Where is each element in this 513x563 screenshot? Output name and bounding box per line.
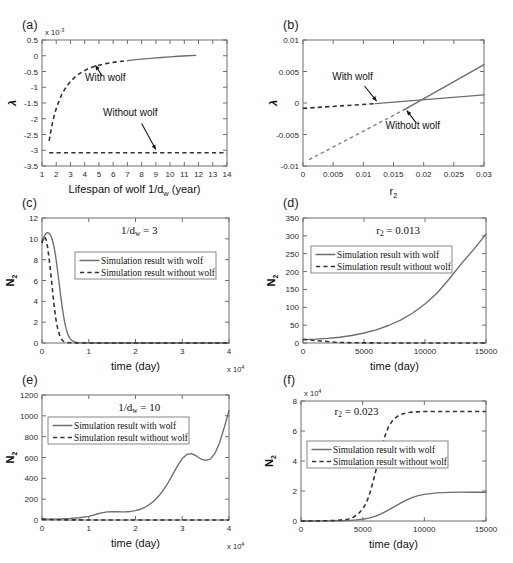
svg-text:Simulation result without wolf: Simulation result without wolf [337, 262, 452, 272]
svg-text:-0.005: -0.005 [276, 131, 299, 140]
svg-text:10000: 10000 [414, 347, 437, 356]
svg-text:time (day): time (day) [370, 360, 419, 372]
svg-text:7: 7 [125, 170, 130, 179]
panel-d-plot: 050001000015000050100150200250300350N2ti… [257, 196, 513, 371]
svg-text:3: 3 [68, 170, 73, 179]
svg-text:0.02: 0.02 [416, 170, 432, 179]
svg-text:3: 3 [180, 347, 185, 356]
svg-text:-1: -1 [31, 83, 39, 92]
svg-text:-3: -3 [31, 146, 39, 155]
svg-text:800: 800 [24, 433, 38, 442]
svg-text:0: 0 [40, 347, 45, 356]
svg-text:1/dw = 10: 1/dw = 10 [118, 401, 161, 415]
svg-text:0: 0 [40, 524, 45, 533]
svg-text:0.01: 0.01 [283, 36, 299, 45]
svg-text:6: 6 [111, 170, 116, 179]
svg-text:0.03: 0.03 [476, 170, 492, 179]
svg-text:2: 2 [133, 347, 138, 356]
svg-text:time (day): time (day) [369, 538, 418, 550]
svg-text:2: 2 [54, 170, 59, 179]
panel-c-label: (c) [22, 196, 37, 210]
svg-text:-1.5: -1.5 [24, 99, 38, 108]
svg-text:Simulation result without wolf: Simulation result without wolf [101, 268, 216, 278]
svg-text:15000: 15000 [475, 347, 498, 356]
svg-text:x 104: x 104 [304, 388, 321, 398]
svg-text:50: 50 [290, 321, 300, 330]
svg-text:Without wolf: Without wolf [386, 120, 441, 131]
svg-text:λ: λ [267, 100, 279, 107]
svg-text:N2: N2 [4, 274, 18, 286]
svg-text:0: 0 [33, 52, 38, 61]
svg-text:x 104: x 104 [227, 541, 244, 551]
panel-a: (a) 1234567891011121314-3.5-3-2.5-2-1.5-… [0, 18, 256, 193]
svg-text:time (day): time (day) [111, 537, 160, 549]
svg-text:8: 8 [139, 170, 144, 179]
svg-text:1200: 1200 [20, 391, 39, 400]
svg-text:-0.01: -0.01 [281, 162, 300, 171]
svg-text:0.005: 0.005 [279, 68, 300, 77]
svg-text:2: 2 [292, 487, 297, 496]
panel-e: (e) 01234020040060080010001200x 104N2tim… [0, 373, 256, 563]
svg-text:4: 4 [33, 297, 38, 306]
svg-text:8: 8 [33, 256, 38, 265]
panel-c-plot: 01234024681012x 104N2time (day)1/dw = 3S… [0, 196, 256, 371]
svg-text:600: 600 [24, 454, 38, 463]
svg-text:300: 300 [285, 232, 299, 241]
svg-text:Simulation result with wolf: Simulation result with wolf [333, 445, 436, 455]
panel-b-plot: 00.0050.010.0150.020.0250.03-0.01-0.0050… [257, 18, 513, 193]
svg-text:Simulation result without wolf: Simulation result without wolf [333, 457, 448, 467]
svg-text:0.01: 0.01 [355, 170, 371, 179]
figure-root: (a) 1234567891011121314-3.5-3-2.5-2-1.5-… [0, 0, 513, 563]
svg-text:200: 200 [285, 268, 299, 277]
svg-text:6: 6 [292, 427, 297, 436]
svg-text:4: 4 [227, 524, 232, 533]
svg-text:10: 10 [166, 170, 176, 179]
svg-text:0: 0 [301, 347, 306, 356]
svg-text:3: 3 [180, 524, 185, 533]
svg-text:Simulation result with wolf: Simulation result with wolf [74, 421, 177, 431]
svg-text:5000: 5000 [355, 347, 374, 356]
panel-b: (b) 00.0050.010.0150.020.0250.03-0.01-0.… [257, 18, 513, 193]
svg-text:15000: 15000 [475, 525, 498, 534]
svg-text:x 10-3: x 10-3 [45, 27, 64, 37]
svg-text:λ: λ [6, 100, 18, 107]
svg-text:4: 4 [292, 457, 297, 466]
svg-text:0: 0 [301, 170, 306, 179]
svg-text:1: 1 [86, 347, 91, 356]
svg-text:12: 12 [29, 214, 39, 223]
svg-text:N2: N2 [265, 274, 279, 286]
svg-text:Without wolf: Without wolf [103, 107, 158, 118]
svg-text:N2: N2 [263, 455, 277, 467]
svg-text:200: 200 [24, 495, 38, 504]
panel-f: (f) 05000100001500002468x 104N2time (day… [257, 373, 513, 563]
svg-text:10000: 10000 [413, 525, 436, 534]
svg-text:0.5: 0.5 [27, 36, 39, 45]
svg-text:1000: 1000 [20, 412, 39, 421]
svg-text:2: 2 [33, 318, 38, 327]
svg-text:With wolf: With wolf [85, 72, 126, 83]
svg-text:9: 9 [154, 170, 159, 179]
panel-d-label: (d) [283, 196, 299, 210]
svg-text:Simulation result without wolf: Simulation result without wolf [74, 433, 189, 443]
svg-text:r2 = 0.023: r2 = 0.023 [335, 405, 379, 419]
panel-a-label: (a) [22, 18, 38, 32]
svg-text:0: 0 [33, 339, 38, 348]
svg-text:0: 0 [294, 99, 299, 108]
svg-text:0.005: 0.005 [323, 170, 344, 179]
svg-text:0: 0 [294, 339, 299, 348]
panel-b-label: (b) [283, 18, 299, 32]
svg-text:2: 2 [133, 524, 138, 533]
svg-text:8: 8 [292, 397, 297, 406]
svg-text:0.025: 0.025 [444, 170, 465, 179]
svg-text:Simulation result with wolf: Simulation result with wolf [337, 250, 440, 260]
svg-text:10: 10 [29, 235, 39, 244]
panel-e-label: (e) [22, 373, 38, 387]
panel-a-plot: 1234567891011121314-3.5-3-2.5-2-1.5-1-0.… [0, 18, 256, 193]
svg-text:N2: N2 [4, 451, 18, 463]
svg-text:13: 13 [208, 170, 218, 179]
svg-text:400: 400 [24, 474, 38, 483]
svg-text:0: 0 [292, 517, 297, 526]
svg-text:14: 14 [222, 170, 232, 179]
panel-f-plot: 05000100001500002468x 104N2time (day)r2 … [257, 373, 513, 563]
svg-text:6: 6 [33, 277, 38, 286]
